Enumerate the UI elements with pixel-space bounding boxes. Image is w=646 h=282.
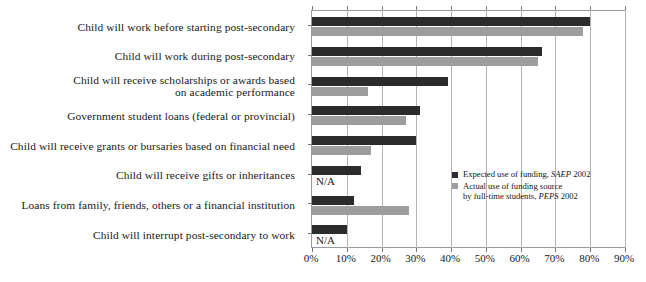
tick-top-90 [625, 6, 626, 10]
category-label-3: Government student loans (federal or pro… [0, 110, 295, 123]
bar-expected-2 [312, 77, 448, 86]
na-label-row-7: N/A [316, 234, 335, 246]
bar-actual-4 [312, 146, 371, 155]
bar-group-3 [312, 104, 625, 132]
legend-item-0: Expected use of funding, SAEP 2002 [452, 169, 638, 180]
tick-top-70 [555, 6, 556, 10]
legend-source-name: SAEP [551, 169, 571, 179]
category-label-2: Child will receive scholarships or award… [0, 74, 295, 99]
bar-group-2 [312, 75, 625, 103]
na-label-row-5: N/A [316, 175, 335, 187]
bar-expected-4 [312, 136, 416, 145]
legend-swatch-gray [452, 183, 458, 189]
bar-actual-2 [312, 87, 368, 96]
legend-line-2: by full-time students, PEPS 2002 [463, 191, 638, 202]
category-label-5: Child will receive gifts or inheritances [0, 169, 295, 182]
legend-line-1: Expected use of funding, SAEP 2002 [463, 169, 638, 180]
legend-item-1: Actual use of funding sourceby full-time… [452, 181, 638, 202]
bar-expected-5 [312, 166, 361, 175]
x-axis-tick-labels: 0%10%20%30%40%50%60%70%80%90% [0, 252, 646, 272]
legend-text: by full-time students, [463, 191, 538, 201]
tick-top-50 [486, 6, 487, 10]
tick-top-10 [347, 6, 348, 10]
category-label-line: Child will work before starting post-sec… [0, 21, 295, 34]
bar-actual-1 [312, 57, 538, 66]
bar-actual-6 [312, 206, 409, 215]
tick-top-80 [590, 6, 591, 10]
plot-top-border [312, 10, 625, 11]
category-label-0: Child will work before starting post-sec… [0, 21, 295, 34]
tick-top-20 [382, 6, 383, 10]
bar-group-0 [312, 15, 625, 43]
x-tick-label-30: 30% [405, 252, 425, 264]
x-tick-label-90: 90% [614, 252, 634, 264]
category-label-line: Child will receive gifts or inheritances [0, 169, 295, 182]
bar-expected-7 [312, 225, 347, 234]
category-label-column: Child will work before starting post-sec… [0, 8, 303, 248]
category-label-line: Child will work during post-secondary [0, 50, 295, 63]
x-tick-label-0: 0% [304, 252, 319, 264]
category-label-1: Child will work during post-secondary [0, 50, 295, 63]
tick-top-60 [521, 6, 522, 10]
x-tick-label-40: 40% [440, 252, 460, 264]
legend-source-name: PEPS [538, 191, 558, 201]
plot-area: N/AN/A [311, 10, 626, 248]
bar-actual-0 [312, 27, 583, 36]
bar-actual-3 [312, 116, 406, 125]
x-tick-label-80: 80% [579, 252, 599, 264]
chart-legend: Expected use of funding, SAEP 2002Actual… [452, 169, 638, 203]
legend-line-1: Actual use of funding source [463, 181, 638, 192]
x-tick-label-10: 10% [336, 252, 356, 264]
category-label-4: Child will receive grants or bursaries b… [0, 140, 295, 153]
legend-text: Expected use of funding, [463, 169, 551, 179]
bar-group-1 [312, 45, 625, 73]
category-label-line: Child will interrupt post-secondary to w… [0, 229, 295, 242]
category-label-line: Child will receive scholarships or award… [0, 74, 295, 87]
legend-year: 2002 [571, 169, 590, 179]
bar-expected-3 [312, 106, 420, 115]
category-label-line: Loans from family, friends, others or a … [0, 199, 295, 212]
horizontal-bar-chart: Child will work before starting post-sec… [0, 0, 646, 282]
category-label-line: Child will receive grants or bursaries b… [0, 140, 295, 153]
bar-expected-1 [312, 47, 542, 56]
x-tick-label-60: 60% [510, 252, 530, 264]
x-tick-label-50: 50% [475, 252, 495, 264]
legend-text: Actual use of funding source [463, 181, 562, 191]
legend-swatch-dark [452, 172, 458, 178]
x-tick-label-70: 70% [544, 252, 564, 264]
category-label-6: Loans from family, friends, others or a … [0, 199, 295, 212]
tick-top-30 [416, 6, 417, 10]
gridline-90 [625, 10, 626, 248]
tick-top-40 [451, 6, 452, 10]
bar-group-4 [312, 134, 625, 162]
bar-group-7: N/A [312, 223, 625, 251]
category-label-line: on academic performance [0, 86, 295, 99]
legend-year: 2002 [558, 191, 577, 201]
category-label-line: Government student loans (federal or pro… [0, 110, 295, 123]
category-label-7: Child will interrupt post-secondary to w… [0, 229, 295, 242]
bar-expected-6 [312, 196, 354, 205]
tick-top-0 [312, 6, 313, 10]
x-tick-label-20: 20% [370, 252, 390, 264]
bar-expected-0 [312, 17, 590, 26]
